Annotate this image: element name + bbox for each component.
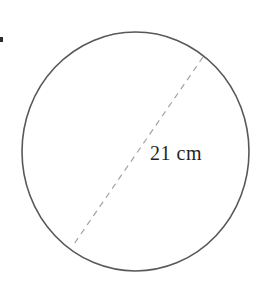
geometry-figure: 21 cm xyxy=(0,0,266,287)
figure-canvas xyxy=(0,0,266,287)
diameter-measurement-label: 21 cm xyxy=(150,142,202,164)
circle-outline xyxy=(22,32,249,271)
